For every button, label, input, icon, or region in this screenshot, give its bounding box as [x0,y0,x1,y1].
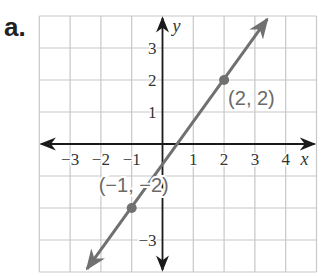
data-point [219,75,229,85]
data-point [127,203,137,213]
coordinate-plane: −3−2−11234321−3xy (2, 2)(−1, −2) [0,0,326,276]
x-axis-label: x [300,149,309,169]
x-tick-label: 2 [220,150,229,169]
y-tick-label: 1 [148,103,157,122]
point-label: (2, 2) [228,87,275,109]
y-tick-label: 2 [148,71,157,90]
x-tick-label: 1 [189,150,198,169]
y-tick-label: −3 [138,231,156,250]
y-tick-label: 3 [148,39,157,58]
x-tick-label: −3 [61,150,79,169]
point-label: (−1, −2) [99,174,169,196]
x-tick-label: −2 [92,150,110,169]
x-tick-label: 3 [251,150,260,169]
y-axis-label: y [171,16,181,36]
x-tick-label: −1 [123,150,141,169]
x-tick-label: 4 [281,150,290,169]
